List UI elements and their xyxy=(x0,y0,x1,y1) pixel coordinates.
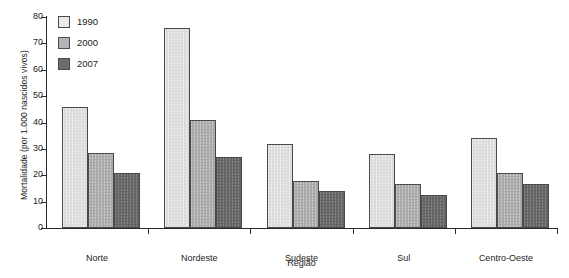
bar-centro-oeste-2000 xyxy=(497,173,523,228)
bar-nordeste-2007 xyxy=(216,157,242,228)
y-tick-label: 40 xyxy=(33,117,43,128)
bar-sudeste-2000 xyxy=(293,181,319,228)
chart-legend: 199020002007 xyxy=(58,11,98,74)
x-tick-mark xyxy=(557,228,558,234)
legend-swatch-2007 xyxy=(58,58,70,70)
legend-swatch-2000 xyxy=(58,37,70,49)
legend-swatch-1990 xyxy=(58,16,70,28)
legend-label-1990: 1990 xyxy=(77,16,98,27)
bar-centro-oeste-1990 xyxy=(471,138,497,228)
legend-item-1990: 1990 xyxy=(58,11,98,32)
y-axis-title: Mortalidade (por 1.000 nascidos vivos) xyxy=(19,15,29,235)
y-tick-label: 30 xyxy=(33,143,43,154)
bar-group xyxy=(164,17,242,228)
bar-group xyxy=(471,17,549,228)
bar-nordeste-1990 xyxy=(164,28,190,228)
y-tick-label: 60 xyxy=(33,64,43,75)
bar-chart-figure: Mortalidade (por 1.000 nascidos vivos) 0… xyxy=(0,0,569,278)
bar-norte-1990 xyxy=(62,107,88,228)
bar-group xyxy=(369,17,447,228)
bar-sul-1990 xyxy=(369,154,395,228)
bar-norte-2007 xyxy=(114,173,140,228)
legend-item-2000: 2000 xyxy=(58,32,98,53)
legend-item-2007: 2007 xyxy=(58,53,98,74)
x-tick-mark xyxy=(148,228,149,234)
legend-label-2007: 2007 xyxy=(77,58,98,69)
y-tick-label: 50 xyxy=(33,90,43,101)
y-tick-label: 70 xyxy=(33,37,43,48)
y-axis-line xyxy=(46,16,47,229)
bar-group xyxy=(267,17,345,228)
bar-sul-2007 xyxy=(421,195,447,228)
y-tick-label: 0 xyxy=(38,222,43,233)
bar-sudeste-2007 xyxy=(319,191,345,228)
x-axis-line xyxy=(46,228,557,229)
x-tick-mark xyxy=(455,228,456,234)
plot-area: 01020304050607080 NorteNordesteSudesteSu… xyxy=(46,17,557,228)
x-tick-mark xyxy=(250,228,251,234)
bar-nordeste-2000 xyxy=(190,120,216,228)
y-tick-label: 20 xyxy=(33,169,43,180)
x-axis-title: Região xyxy=(46,258,557,268)
legend-label-2000: 2000 xyxy=(77,37,98,48)
bar-sul-2000 xyxy=(395,184,421,228)
y-tick-label: 80 xyxy=(33,11,43,22)
x-tick-mark xyxy=(353,228,354,234)
bar-norte-2000 xyxy=(88,153,114,228)
bar-sudeste-1990 xyxy=(267,144,293,228)
bar-centro-oeste-2007 xyxy=(523,184,549,228)
y-tick-label: 10 xyxy=(33,196,43,207)
